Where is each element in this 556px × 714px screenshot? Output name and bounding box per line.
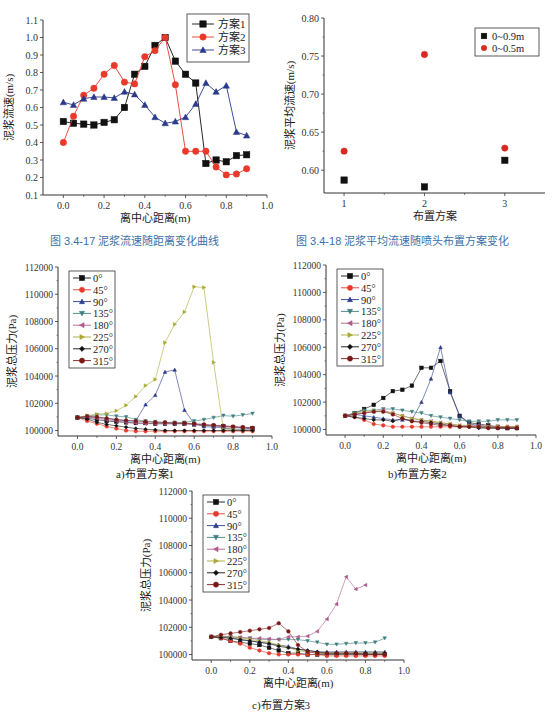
y-tick-label: 0.5 [26, 120, 39, 131]
triangle-marker-icon [223, 82, 229, 88]
circle-marker-icon [79, 287, 84, 292]
x-tick-label: 0.8 [227, 442, 239, 452]
hexagon-marker-icon [202, 423, 206, 427]
hexagon-marker-icon [315, 651, 319, 655]
hexagon-marker-icon [248, 629, 252, 633]
x-tick-label: 0.8 [360, 666, 372, 676]
hexagon-marker-icon [362, 411, 366, 415]
circle-marker-icon [200, 34, 206, 40]
square-marker-icon [267, 646, 271, 650]
y-tick-label: 0.65 [302, 127, 320, 138]
legend: 方案1方案2方案3 [187, 14, 249, 62]
y-tick-label: 108000 [25, 317, 54, 327]
y-tick-label: 110000 [293, 288, 321, 298]
legend-label: 270° [361, 342, 381, 353]
y-tick-label: 110000 [159, 514, 187, 524]
x-tick-label: 2 [422, 198, 427, 209]
subcaption-a: a)布置方案1 [116, 465, 174, 481]
hexagon-marker-icon [105, 416, 109, 420]
hexagon-marker-icon [144, 420, 148, 424]
hexagon-marker-icon [429, 422, 433, 426]
y-tick-label: 1.0 [26, 32, 39, 43]
hexagon-marker-icon [209, 635, 213, 639]
hexagon-marker-icon [344, 651, 348, 655]
legend-label: 方案1 [218, 17, 246, 30]
y-tick-label: 0.8 [26, 67, 39, 78]
hexagon-marker-icon [420, 421, 424, 425]
y-tick-label: 0.1 [26, 190, 39, 201]
hexagon-marker-icon [448, 424, 452, 428]
square-marker-icon [79, 275, 84, 280]
hexagon-marker-icon [267, 626, 271, 630]
y-tick-label: 112000 [293, 261, 321, 271]
chart-fig_c: 1000001020001040001060001080001100001120… [139, 487, 410, 691]
circle-marker-icon [347, 285, 352, 290]
square-marker-icon [60, 118, 66, 124]
legend-label: 方案2 [218, 30, 246, 43]
circle-marker-icon [277, 653, 281, 657]
square-marker-icon [391, 389, 395, 393]
hexagon-marker-icon [212, 423, 216, 427]
square-marker-icon [193, 80, 199, 86]
chart-fig18: 0.600.650.700.750.80123布置方案泥浆平均流速(m/s)0~… [283, 13, 545, 223]
square-marker-icon [341, 177, 347, 183]
triangle-marker-icon [183, 408, 187, 411]
triangle-left-marker-icon [315, 630, 318, 634]
hexagon-marker-icon [306, 650, 310, 654]
hexagon-marker-icon [515, 426, 519, 430]
y-axis-label: 泥浆平均流速(m/s) [283, 61, 297, 151]
circle-marker-icon [248, 646, 252, 650]
series-0~0.9m [341, 157, 508, 190]
y-tick-label: 106000 [25, 344, 54, 354]
y-axis-label: 泥浆总压力(Pa) [139, 539, 153, 613]
hexagon-marker-icon [477, 425, 481, 429]
circle-marker-icon [193, 148, 199, 154]
hexagon-marker-icon [391, 413, 395, 417]
x-axis-label: 离中心距离(m) [263, 676, 334, 690]
square-marker-icon [81, 121, 87, 127]
x-tick-label: 0.4 [139, 200, 152, 211]
legend-label: 0° [93, 273, 102, 284]
square-marker-icon [502, 157, 508, 163]
circle-marker-icon [162, 34, 168, 40]
triangle-right-marker-icon [115, 409, 118, 413]
triangle-marker-icon [429, 377, 433, 380]
y-tick-label: 0.7 [26, 85, 39, 96]
x-tick-label: 0.6 [321, 666, 333, 676]
hexagon-marker-icon [496, 426, 500, 430]
hexagon-marker-icon [467, 425, 471, 429]
hexagon-marker-icon [372, 410, 376, 414]
square-marker-icon [481, 33, 487, 39]
legend-label: 0° [361, 271, 370, 282]
x-tick-label: 0.0 [72, 442, 84, 452]
x-axis-label: 离中心距离(m) [396, 451, 467, 465]
triangle-right-marker-icon [144, 384, 147, 388]
legend-label: 135° [93, 308, 113, 319]
legend-label: 45° [93, 285, 108, 296]
square-marker-icon [200, 21, 206, 27]
circle-marker-icon [60, 139, 66, 145]
square-marker-icon [243, 152, 249, 158]
hexagon-marker-icon [439, 424, 443, 428]
figure-canvas: 0.10.20.30.40.50.60.70.80.91.01.10.00.20… [0, 0, 556, 714]
legend-label: 180° [361, 318, 381, 329]
hexagon-marker-icon [213, 582, 218, 587]
hexagon-marker-icon [296, 643, 300, 647]
square-marker-icon [421, 184, 427, 190]
x-tick-label: 1.0 [530, 441, 542, 451]
y-tick-label: 102000 [293, 398, 322, 408]
y-tick-label: 0.2 [26, 172, 39, 183]
square-marker-icon [213, 499, 218, 504]
x-tick-label: 0.4 [416, 441, 428, 451]
circle-marker-icon [267, 651, 271, 655]
hexagon-marker-icon [79, 358, 84, 363]
hexagon-marker-icon [153, 421, 157, 425]
circle-marker-icon [296, 653, 300, 657]
hexagon-marker-icon [76, 416, 80, 420]
circle-marker-icon [111, 62, 117, 68]
chart-fig_a: 1000001020001040001060001080001100001120… [5, 263, 278, 467]
legend: 0°45°90°135°180°225°270°315° [69, 271, 115, 368]
y-tick-label: 0.6 [26, 102, 39, 113]
circle-marker-icon [502, 145, 508, 151]
square-marker-icon [121, 104, 127, 110]
